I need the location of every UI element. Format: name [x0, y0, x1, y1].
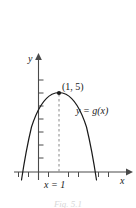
vertex-coordinate-label: (1, 5): [62, 82, 84, 92]
x-axis-label: x: [120, 176, 124, 186]
y-axis-arrowhead: [35, 53, 42, 60]
y-axis-ticks: [39, 80, 44, 158]
x-axis-arrowhead: [126, 169, 133, 176]
vertex-point-marker: [57, 91, 61, 95]
y-axis-label: y: [28, 54, 32, 64]
function-equation-label: y = g(x): [76, 106, 108, 116]
x-equals-one-label: x = 1: [44, 180, 65, 190]
figure-caption: Fig. 5.1: [0, 200, 136, 208]
parabola-figure: y x (1, 5) y = g(x) x = 1 Fig. 5.1: [0, 0, 136, 208]
graph-canvas: [0, 0, 136, 208]
